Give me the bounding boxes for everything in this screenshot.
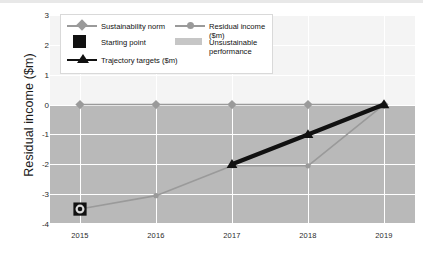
sustainability-norm-key-icon [67, 21, 97, 30]
x-tick-2017: 2017 [223, 231, 241, 240]
unsustainable-performance-key-icon [175, 37, 205, 46]
chart-legend: Sustainability norm Residual income ($m)… [60, 14, 273, 74]
legend-label-sustainability-norm: Sustainability norm [101, 21, 165, 31]
starting-point-key-icon [67, 37, 97, 46]
x-tick-2015: 2015 [71, 231, 89, 240]
x-tick-2018: 2018 [299, 231, 317, 240]
legend-item-unsustainable-performance: Unsustainable performance [175, 37, 257, 56]
legend-label-unsustainable-performance: Unsustainable performance [209, 37, 257, 56]
residual-income-key-icon [175, 21, 205, 30]
x-tick-2019: 2019 [375, 231, 393, 240]
legend-item-trajectory-targets: Trajectory targets ($m) [67, 55, 178, 65]
chart-figure: Residual income ($m) 3 2 1 0 -1 -2 -3 -4… [0, 0, 423, 253]
trajectory-targets-key-icon [67, 55, 97, 64]
legend-item-sustainability-norm: Sustainability norm [67, 21, 165, 31]
x-tick-2016: 2016 [147, 231, 165, 240]
legend-item-starting-point: Starting point [67, 37, 146, 47]
legend-label-starting-point: Starting point [101, 37, 146, 47]
legend-label-trajectory-targets: Trajectory targets ($m) [101, 55, 178, 65]
